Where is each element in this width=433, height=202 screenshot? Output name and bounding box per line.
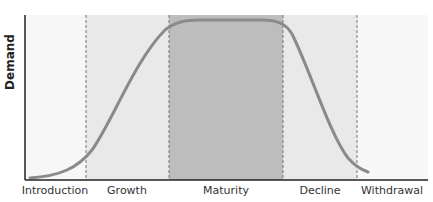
band-withdrawal [357, 15, 428, 180]
x-tick-introduction: Introduction [22, 184, 89, 197]
x-tick-growth: Growth [107, 184, 147, 197]
x-tick-withdrawal: Withdrawal [361, 184, 423, 197]
band-introduction [25, 15, 86, 180]
product-life-cycle-chart: Demand Introduction Growth Maturity Decl… [0, 0, 433, 202]
x-tick-labels: Introduction Growth Maturity Decline Wit… [22, 184, 423, 197]
band-maturity [169, 15, 283, 180]
x-tick-decline: Decline [299, 184, 340, 197]
x-tick-maturity: Maturity [203, 184, 249, 197]
y-axis-label: Demand [3, 34, 17, 90]
